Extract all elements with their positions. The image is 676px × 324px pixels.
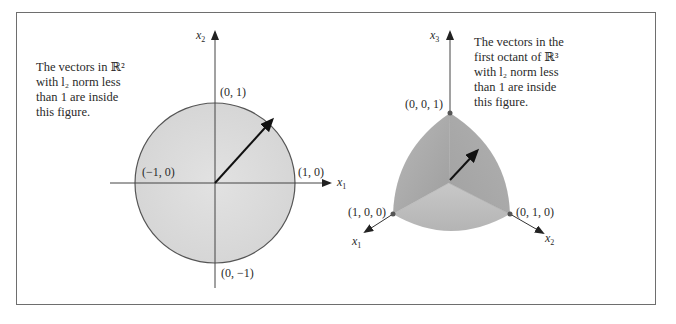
point-label-bottom: (0, −1) (221, 266, 254, 281)
point-label-right: (1, 0) (298, 165, 324, 180)
point-label-left: (−1, 0) (142, 165, 175, 180)
x2-axis-label: x2 (196, 28, 205, 44)
point-010 (508, 212, 513, 217)
x1-axis-label-3d: x1 (352, 234, 361, 250)
x1-axis-label: x1 (337, 175, 346, 191)
right-caption: The vectors in thefirst octant of ℝ³with… (474, 35, 564, 110)
unit-disk-figure (110, 32, 330, 288)
x2-axis-label-3d: x2 (545, 231, 554, 247)
point-001 (448, 111, 453, 116)
point-100 (391, 212, 396, 217)
point-label-100: (1, 0, 0) (348, 205, 386, 220)
point-label-top: (0, 1) (220, 85, 246, 100)
diagram-canvas (0, 0, 676, 324)
point-label-010: (0, 1, 0) (516, 205, 554, 220)
point-label-001: (0, 0, 1) (405, 97, 443, 112)
x3-axis-label: x3 (430, 28, 439, 44)
left-caption: The vectors in ℝ²with l₂ norm lessthan 1… (36, 60, 125, 120)
